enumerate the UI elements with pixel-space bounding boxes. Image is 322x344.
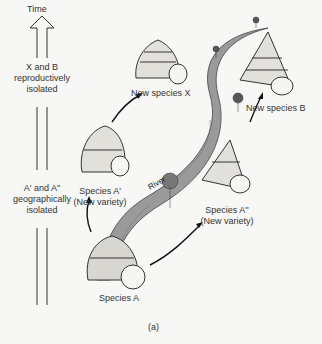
time-label: Time — [27, 4, 47, 15]
shell-species-a — [87, 236, 145, 289]
note-line: A' and A'' — [10, 183, 74, 194]
label-line: Species A'' — [193, 205, 261, 216]
note-line: isolated — [10, 205, 74, 216]
label-new-species-x: New species X — [131, 88, 191, 99]
note-line: X and B — [10, 62, 74, 73]
reproductive-isolation-note: X and B reproductively isolated — [10, 62, 74, 95]
note-line: geographically — [10, 194, 74, 205]
shell-species-x — [136, 40, 187, 84]
figure-caption: (a) — [148, 322, 159, 333]
shell-species-b — [240, 32, 293, 95]
shell-species-a-prime — [81, 126, 129, 176]
note-line: isolated — [10, 84, 74, 95]
label-new-species-b: New species B — [246, 103, 306, 114]
note-line: reproductively — [10, 73, 74, 84]
label-species-a-double-prime: Species A'' (New variety) — [193, 205, 261, 227]
speciation-illustration: River — [0, 0, 322, 344]
time-arrow-icon — [30, 16, 54, 305]
label-line: (New variety) — [66, 197, 134, 208]
geographic-isolation-note: A' and A'' geographically isolated — [10, 183, 74, 216]
label-line: Species A' — [66, 186, 134, 197]
label-species-a-prime: Species A' (New variety) — [66, 186, 134, 208]
label-line: (New variety) — [193, 216, 261, 227]
label-species-a: Species A — [99, 293, 139, 304]
